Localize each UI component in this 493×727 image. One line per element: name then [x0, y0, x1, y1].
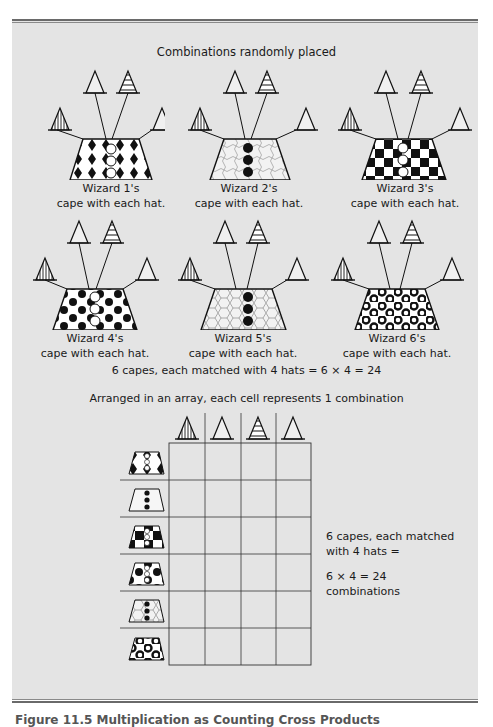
row-3-cape-thumbnail	[129, 526, 164, 548]
side-text-line-3: 6 × 4 = 24	[326, 569, 476, 584]
bottom-rule	[12, 699, 478, 703]
header-hat-4-icon	[281, 417, 305, 439]
header-hat-3-icon	[246, 417, 270, 439]
row-1-cape-thumbnail	[129, 452, 164, 474]
side-text-line-1: 6 capes, each matched	[326, 529, 476, 544]
row-6-cape-thumbnail	[129, 638, 164, 660]
row-4-cape-thumbnail	[129, 563, 164, 585]
header-hat-2-icon	[210, 417, 234, 439]
side-text-line-4: combinations	[326, 584, 476, 599]
header-hat-1-icon	[175, 417, 199, 439]
side-text-line-2: with 4 hats =	[326, 544, 476, 559]
row-2-cape-thumbnail	[129, 489, 164, 511]
figure-caption: Figure 11.5 Multiplication as Counting C…	[15, 713, 380, 727]
row-5-cape-thumbnail	[129, 600, 164, 622]
